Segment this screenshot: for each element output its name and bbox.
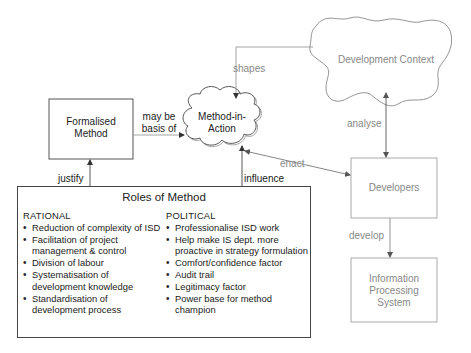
- roles-title: Roles of Method: [18, 191, 310, 203]
- developers-label: Developers: [351, 182, 437, 194]
- develop-label: develop: [349, 230, 384, 242]
- political-item: Audit trail: [166, 269, 312, 281]
- rational-heading: RATIONAL: [23, 210, 163, 222]
- method-in-action-label-line1: Method-in-: [190, 111, 254, 123]
- roles-of-method-box: Roles of Method RATIONAL Reduction of co…: [17, 186, 311, 338]
- formalised-method-label: Formalised Method: [49, 116, 133, 140]
- influence-label: influence: [244, 173, 284, 185]
- formalised-method-label-line1: Formalised: [49, 116, 133, 128]
- rational-list: Reduction of complexity of ISD Facilitat…: [23, 222, 163, 316]
- political-item: Legitimacy factor: [166, 281, 312, 293]
- enact-label: enact: [280, 158, 304, 170]
- political-heading: POLITICAL: [166, 210, 312, 222]
- analyse-label: analyse: [347, 118, 381, 130]
- rational-item: Division of labour: [23, 257, 163, 269]
- political-item: Power base for method champion: [166, 293, 312, 317]
- ips-label: Information Processing System: [351, 273, 437, 309]
- rational-item: Systematisation of development knowledge: [23, 269, 163, 293]
- ips-label-line1: Information: [351, 273, 437, 285]
- method-in-action-label-line2: Action: [190, 123, 254, 135]
- may-be-label-line1: may be: [137, 111, 181, 123]
- rational-item: Standardisation of development process: [23, 293, 163, 317]
- political-item: Comfort/confidence factor: [166, 257, 312, 269]
- ips-label-line3: System: [351, 297, 437, 309]
- political-item: Professionalise ISD work: [166, 222, 312, 234]
- method-in-action-label: Method-in- Action: [190, 111, 254, 135]
- political-item: Help make IS dept. more proactive in str…: [166, 234, 312, 258]
- shapes-label: shapes: [233, 63, 265, 75]
- development-context-label: Development Context: [326, 54, 446, 66]
- rational-column: RATIONAL Reduction of complexity of ISD …: [23, 210, 163, 316]
- justify-label: justify: [58, 173, 84, 185]
- formalised-method-label-line2: Method: [49, 128, 133, 140]
- may-be-basis-of-label: may be basis of: [137, 111, 181, 135]
- political-column: POLITICAL Professionalise ISD work Help …: [166, 210, 312, 316]
- rational-item: Reduction of complexity of ISD: [23, 222, 163, 234]
- basis-of-label-line2: basis of: [137, 123, 181, 135]
- rational-item: Facilitation of project management & con…: [23, 234, 163, 258]
- political-list: Professionalise ISD work Help make IS de…: [166, 222, 312, 316]
- ips-label-line2: Processing: [351, 285, 437, 297]
